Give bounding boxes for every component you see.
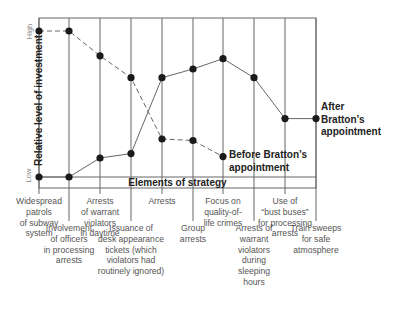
- category-label: Group arrests: [180, 223, 206, 245]
- after-data-point: [250, 74, 257, 81]
- before-data-point: [65, 27, 72, 34]
- category-label: Train sweeps for safe atmosphere: [291, 223, 342, 255]
- before-data-point: [96, 52, 103, 59]
- after-data-point: [96, 154, 103, 161]
- after-data-point: [158, 74, 165, 81]
- before-data-point: [158, 135, 165, 142]
- y-tick-low: Low: [24, 169, 33, 183]
- after-series-label: After Bratton’s appointment: [321, 101, 381, 139]
- chart-canvas: [0, 0, 393, 324]
- before-data-point: [189, 137, 196, 144]
- x-axis-title: Elements of strategy: [39, 177, 316, 188]
- y-axis-label: Relative level of investment: [33, 31, 44, 171]
- after-data-point: [312, 115, 319, 122]
- before-series-label: Before Bratton’s appointment: [229, 149, 307, 174]
- y-tick-high: High: [25, 24, 34, 39]
- after-data-point: [219, 55, 226, 62]
- before-data-point: [219, 153, 226, 160]
- category-label: Arrests: [148, 196, 175, 207]
- category-label: Issuance of desk appearance tickets (whi…: [98, 223, 164, 277]
- category-gridlines: [39, 18, 316, 221]
- after-data-point: [281, 115, 288, 122]
- after-data-point: [189, 65, 196, 72]
- before-data-point: [127, 74, 134, 81]
- after-data-point: [127, 150, 134, 157]
